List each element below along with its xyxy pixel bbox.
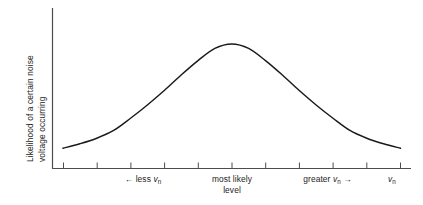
x-label-most-likely-line-1: most likely [212, 174, 252, 184]
x-label-greater-variable: vn [333, 174, 341, 184]
x-label-most-likely-line-2: level [223, 185, 241, 195]
x-label-most-likely-level: most likely level [191, 174, 273, 195]
x-label-less-variable: vn [153, 174, 161, 184]
x-label-greater-text: greater [303, 174, 330, 184]
x-axis-ticks [64, 163, 401, 169]
x-axis-variable-name: vn [388, 174, 414, 186]
x-label-greater-noise: greater vn → [285, 174, 370, 186]
x-axis-variable-sub: n [392, 178, 396, 185]
left-arrow-icon: ← [125, 174, 133, 184]
x-label-less-text: less [136, 174, 151, 184]
figure-container: Likelihood of a certain noise voltage oc… [0, 0, 423, 205]
gaussian-curve [63, 44, 401, 148]
right-arrow-icon: → [343, 174, 351, 184]
x-label-less-noise: ← less vn [103, 174, 183, 186]
